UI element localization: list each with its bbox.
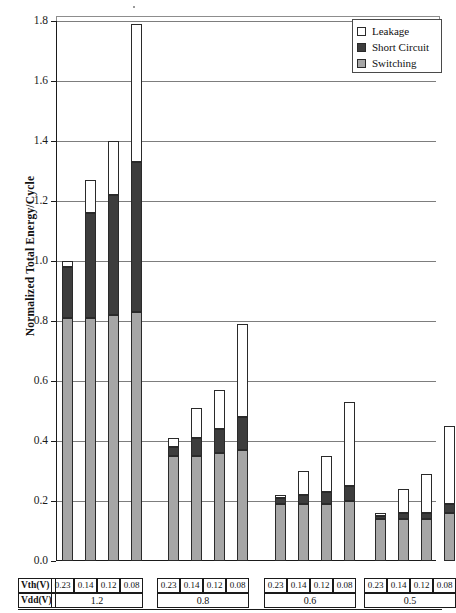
bar-segment-short-circuit: [375, 516, 386, 519]
bar-stack[interactable]: [375, 21, 386, 561]
bar-segment-switching: [237, 450, 248, 561]
bar-segment-short-circuit: [444, 504, 455, 513]
table-cell-vdd: 1.2: [51, 593, 143, 608]
legend-label-short-circuit: Short Circuit: [372, 41, 429, 53]
legend-swatch-short-circuit-icon: [357, 43, 366, 52]
bar-segment-short-circuit: [191, 438, 202, 456]
legend-item-short-circuit: Short Circuit: [357, 39, 437, 55]
bar-segment-switching: [85, 318, 96, 561]
bar-segment-switching: [275, 504, 286, 561]
bar-segment-short-circuit: [321, 492, 332, 504]
bar-segment-leakage: [375, 513, 386, 516]
bar-stack[interactable]: [344, 21, 355, 561]
bar-stack[interactable]: [398, 21, 409, 561]
table-cell-vth: 0.14: [287, 578, 310, 593]
y-axis-tick-label: 0.4: [10, 435, 48, 446]
bar-stack[interactable]: [214, 21, 225, 561]
bar-segment-leakage: [344, 402, 355, 486]
bar-segment-switching: [375, 519, 386, 561]
y-axis-tick: [51, 561, 56, 562]
bar-segment-switching: [421, 519, 432, 561]
bar-segment-switching: [168, 456, 179, 561]
page-speck: [133, 6, 135, 8]
bar-stack[interactable]: [237, 21, 248, 561]
bar-segment-switching: [131, 312, 142, 561]
bar-segment-leakage: [191, 408, 202, 438]
table-cell-vth: 0.14: [180, 578, 203, 593]
bar-segment-switching: [398, 519, 409, 561]
table-cell-vdd: 0.6: [264, 593, 356, 608]
table-cell-vth: 0.08: [120, 578, 143, 593]
bar-segment-short-circuit: [62, 267, 73, 318]
y-axis-tick-label: 0.2: [10, 495, 48, 506]
bar-stack[interactable]: [108, 21, 119, 561]
bar-segment-short-circuit: [298, 495, 309, 504]
bar-stack[interactable]: [168, 21, 179, 561]
table-cell-vth: 0.12: [97, 578, 120, 593]
bar-segment-switching: [444, 513, 455, 561]
bar-segment-switching: [108, 315, 119, 561]
bar-segment-leakage: [108, 141, 119, 195]
y-axis-tick-label: 0.0: [10, 555, 48, 566]
legend-swatch-switching-icon: [357, 59, 366, 68]
table-cell-vth: 0.23: [264, 578, 287, 593]
bar-segment-leakage: [421, 474, 432, 513]
bar-stack[interactable]: [85, 21, 96, 561]
bar-segment-leakage: [237, 324, 248, 417]
bar-segment-short-circuit: [237, 417, 248, 450]
bar-segment-leakage: [444, 426, 455, 504]
bar-segment-leakage: [62, 261, 73, 267]
bar-segment-leakage: [298, 471, 309, 495]
bar-segment-switching: [62, 318, 73, 561]
bar-segment-switching: [191, 456, 202, 561]
y-axis-tick-label: 1.8: [10, 15, 48, 26]
table-cell-vth: 0.12: [203, 578, 226, 593]
table-cell-vth: 0.08: [333, 578, 356, 593]
bar-segment-short-circuit: [131, 162, 142, 312]
table-cell-vth: 0.14: [387, 578, 410, 593]
bar-segment-switching: [321, 504, 332, 561]
bar-segment-switching: [298, 504, 309, 561]
parameter-table: Vth(V)Vdd(V)0.230.140.120.081.20.230.140…: [18, 578, 442, 608]
bar-segment-short-circuit: [214, 429, 225, 453]
bar-segment-leakage: [275, 495, 286, 498]
bar-stack[interactable]: [298, 21, 309, 561]
bar-stack[interactable]: [421, 21, 432, 561]
bar-segment-leakage: [85, 180, 96, 213]
table-cell-vth: 0.23: [51, 578, 74, 593]
legend-item-switching: Switching: [357, 55, 437, 71]
legend-swatch-leakage-icon: [357, 27, 366, 36]
bar-segment-switching: [344, 501, 355, 561]
bar-stack[interactable]: [275, 21, 286, 561]
legend-label-leakage: Leakage: [372, 25, 409, 37]
table-cell-vdd: 0.8: [157, 593, 249, 608]
bar-segment-short-circuit: [168, 447, 179, 456]
table-cell-vth: 0.23: [364, 578, 387, 593]
table-bottom-rule: [18, 609, 442, 610]
bar-stack[interactable]: [444, 21, 455, 561]
bar-stack[interactable]: [131, 21, 142, 561]
bar-stack[interactable]: [62, 21, 73, 561]
table-cell-vth: 0.08: [226, 578, 249, 593]
legend-item-leakage: Leakage: [357, 23, 437, 39]
bar-segment-switching: [214, 453, 225, 561]
legend: Leakage Short Circuit Switching: [352, 19, 442, 73]
bar-segment-short-circuit: [398, 513, 409, 519]
y-axis-title: Normalized Total Energy/Cycle: [24, 141, 36, 371]
bar-stack[interactable]: [321, 21, 332, 561]
bar-segment-leakage: [214, 390, 225, 429]
bar-segment-leakage: [131, 24, 142, 162]
table-cell-vth: 0.14: [74, 578, 97, 593]
bars-container: [56, 21, 436, 561]
table-cell-vdd: 0.5: [364, 593, 456, 608]
bar-segment-short-circuit: [344, 486, 355, 501]
bar-segment-short-circuit: [421, 513, 432, 519]
bar-segment-short-circuit: [108, 195, 119, 315]
table-cell-vth: 0.23: [157, 578, 180, 593]
bar-segment-leakage: [168, 438, 179, 447]
legend-label-switching: Switching: [372, 57, 417, 69]
bar-segment-leakage: [321, 456, 332, 492]
bar-stack[interactable]: [191, 21, 202, 561]
table-cell-vth: 0.12: [310, 578, 333, 593]
